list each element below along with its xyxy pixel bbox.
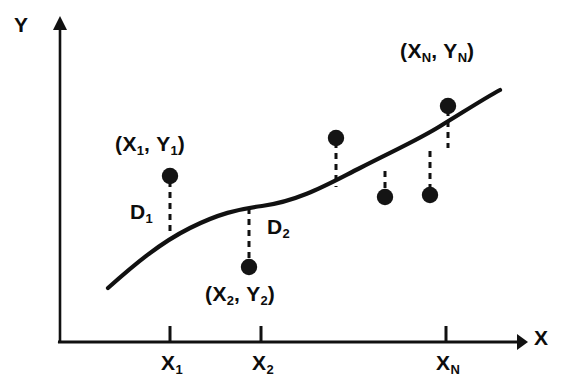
label-x1-y1-sub1: 1 — [137, 143, 144, 158]
data-point-markers — [162, 98, 456, 275]
residual-d2-sub: 2 — [283, 226, 290, 241]
tick-label-xn: XN — [436, 352, 460, 373]
residual-d1-sub: 1 — [146, 211, 153, 226]
tick-label-x2-sub: 2 — [266, 362, 273, 377]
fitted-curve — [108, 90, 500, 288]
label-x1-y1-open: (X — [115, 132, 137, 155]
label-x1-y1: (X1, Y1) — [115, 133, 185, 154]
label-x2-y2-open: (X — [205, 282, 227, 305]
data-point-p4 — [377, 189, 393, 205]
label-xn-yn-mid: , Y — [431, 39, 458, 62]
label-x1-y1-sub2: 1 — [171, 143, 178, 158]
residual-lines — [170, 110, 448, 264]
figure-root: Y X X1 X2 XN (X1, Y1) (X2, Y2) (XN, YN) … — [0, 0, 561, 388]
figure-canvas — [0, 0, 561, 388]
y-axis-arrow-icon — [53, 16, 67, 30]
label-x1-y1-mid: , Y — [144, 132, 171, 155]
label-xn-yn-close: ) — [467, 39, 474, 62]
label-x2-y2-sub1: 2 — [227, 293, 234, 308]
label-xn-yn-sub1: N — [422, 50, 431, 65]
residual-d1-main: D — [130, 200, 146, 223]
data-point-p1 — [162, 168, 178, 184]
label-x2-y2-mid: , Y — [234, 282, 261, 305]
label-x2-y2: (X2, Y2) — [205, 283, 275, 304]
data-point-p2 — [241, 259, 257, 275]
x-axis-arrow-icon — [517, 334, 528, 350]
x-axis-label: X — [534, 327, 548, 348]
label-x1-y1-close: ) — [178, 132, 185, 155]
data-point-p3 — [328, 130, 344, 146]
tick-label-xn-sub: N — [450, 362, 459, 377]
label-xn-yn-open: (X — [400, 39, 422, 62]
x-axis-ticks — [170, 326, 446, 342]
y-axis-label: Y — [14, 14, 28, 35]
tick-label-x2-main: X — [252, 351, 266, 374]
tick-label-x2: X2 — [252, 352, 274, 373]
label-xn-yn: (XN, YN) — [400, 40, 475, 61]
label-xn-yn-sub2: N — [458, 50, 467, 65]
residual-d2-main: D — [267, 215, 283, 238]
label-x2-y2-close: ) — [268, 282, 275, 305]
tick-label-xn-main: X — [436, 351, 450, 374]
label-x2-y2-sub2: 2 — [261, 293, 268, 308]
data-point-pn — [440, 98, 456, 114]
residual-d1: D1 — [130, 201, 153, 222]
residual-d2: D2 — [267, 216, 290, 237]
data-point-p5 — [422, 187, 438, 203]
tick-label-x1-sub: 1 — [175, 362, 182, 377]
tick-label-x1: X1 — [161, 352, 183, 373]
tick-label-x1-main: X — [161, 351, 175, 374]
